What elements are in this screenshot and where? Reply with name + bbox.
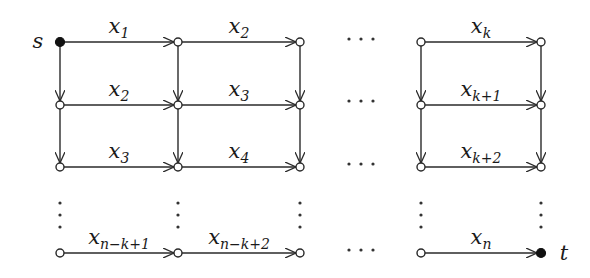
source-node: [56, 38, 65, 47]
grid-node: [537, 163, 545, 171]
grid-node: [56, 163, 64, 171]
edge-label: x2: [229, 14, 250, 41]
edge-label: xk+1: [461, 77, 502, 104]
horizontal-ellipsis-dot: [359, 162, 362, 165]
grid-node: [174, 249, 182, 257]
edge-label: xn: [471, 225, 492, 252]
edge-label: x4: [229, 139, 250, 166]
grid-node: [56, 249, 64, 257]
grid-node: [537, 38, 545, 46]
grid-node: [174, 163, 182, 171]
grid-node: [296, 38, 304, 46]
edge-label: xk+2: [461, 139, 502, 166]
vertical-ellipsis-dot: [419, 201, 422, 204]
grid-node: [417, 38, 425, 46]
edge-label: x2: [109, 77, 130, 104]
vertical-ellipsis-dot: [176, 225, 179, 228]
horizontal-ellipsis-dot: [347, 248, 350, 251]
source-label: s: [33, 29, 44, 53]
horizontal-ellipsis-dot: [359, 248, 362, 251]
vertical-ellipsis-dot: [419, 213, 422, 216]
grid-node: [537, 101, 545, 109]
grid-node: [174, 101, 182, 109]
horizontal-ellipsis-dot: [347, 37, 350, 40]
vertical-ellipsis-dot: [539, 213, 542, 216]
grid-node: [56, 101, 64, 109]
vertical-ellipsis-dot: [58, 201, 61, 204]
vertical-ellipsis-dot: [58, 225, 61, 228]
edge-label: x3: [109, 139, 130, 166]
horizontal-ellipsis-dot: [359, 37, 362, 40]
vertical-ellipsis-dot: [539, 201, 542, 204]
sink-node: [537, 249, 546, 258]
horizontal-ellipsis-dot: [347, 162, 350, 165]
edge-label: x1: [109, 14, 130, 41]
grid-node: [417, 101, 425, 109]
grid-graph-diagram: x1x2xkx2x3xk+1x3x4xk+2xn−k+1xn−k+2xnst: [0, 0, 590, 278]
grid-node: [296, 249, 304, 257]
edge-label: xn−k+2: [208, 225, 270, 252]
vertical-ellipsis-dot: [298, 201, 301, 204]
vertical-ellipsis-dot: [298, 225, 301, 228]
grid-node: [417, 249, 425, 257]
vertical-ellipsis-dot: [176, 201, 179, 204]
grid-node: [417, 163, 425, 171]
horizontal-ellipsis-dot: [371, 37, 374, 40]
grid-node: [296, 163, 304, 171]
horizontal-ellipsis-dot: [371, 248, 374, 251]
horizontal-ellipsis-dot: [359, 99, 362, 102]
horizontal-ellipsis-dot: [371, 99, 374, 102]
vertical-ellipsis-dot: [298, 213, 301, 216]
edge-label: xk: [471, 14, 491, 41]
edge-label: x3: [229, 77, 250, 104]
vertical-ellipsis-dot: [419, 225, 422, 228]
grid-node: [174, 38, 182, 46]
horizontal-ellipsis-dot: [371, 162, 374, 165]
horizontal-ellipsis-dot: [347, 99, 350, 102]
grid-node: [296, 101, 304, 109]
vertical-ellipsis-dot: [58, 213, 61, 216]
sink-label: t: [560, 241, 569, 265]
vertical-ellipsis-dot: [176, 213, 179, 216]
edge-label: xn−k+1: [88, 225, 150, 252]
vertical-ellipsis-dot: [539, 225, 542, 228]
